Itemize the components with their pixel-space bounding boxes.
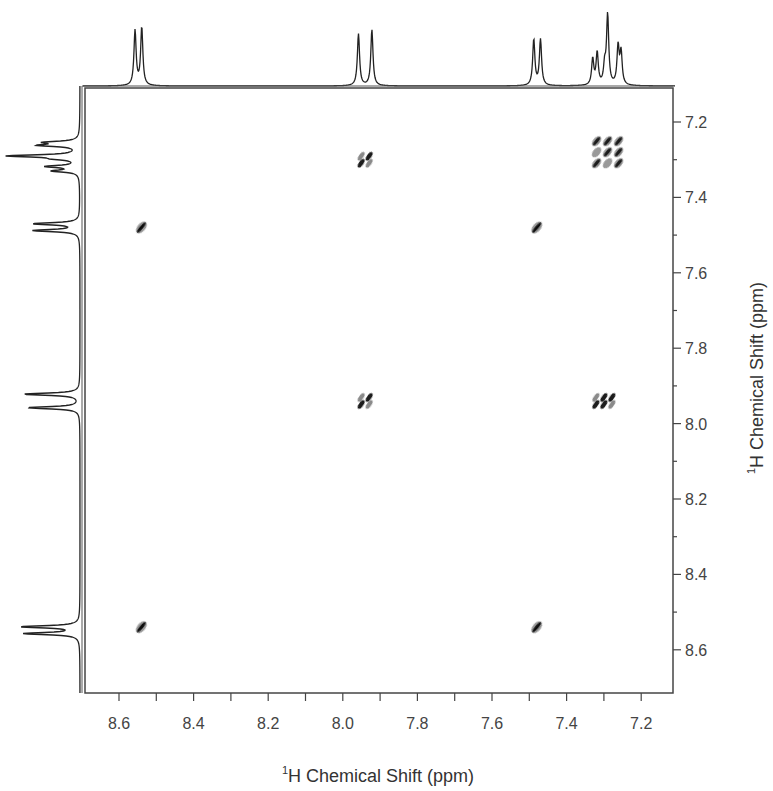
x-tick-label: 8.4	[182, 715, 204, 732]
x-axis: 8.68.48.28.07.87.67.47.2	[108, 693, 653, 732]
cross-peak	[134, 220, 149, 236]
y-axis-title: 1H Chemical Shift (ppm)	[745, 282, 767, 474]
diagonal-peak	[529, 220, 544, 236]
left-1d-projection-spectrum	[6, 86, 80, 693]
diagonal-peak	[134, 619, 149, 635]
diagonal-peak	[590, 134, 625, 170]
y-tick-label: 7.8	[685, 340, 707, 357]
x-tick-label: 7.8	[406, 715, 428, 732]
y-tick-label: 8.0	[685, 416, 707, 433]
x-axis-title: 1H Chemical Shift (ppm)	[282, 764, 474, 786]
y-tick-label: 8.2	[685, 491, 707, 508]
x-tick-label: 7.2	[630, 715, 652, 732]
cross-peak	[529, 619, 544, 635]
top-1d-projection-spectrum	[83, 12, 675, 86]
y-axis: 7.27.47.67.88.08.28.48.6	[673, 114, 707, 659]
y-tick-label: 7.4	[685, 189, 707, 206]
plot-frame	[82, 86, 673, 693]
x-tick-label: 8.6	[108, 715, 130, 732]
cosy-nmr-chart: 8.68.48.28.07.87.67.47.2 7.27.47.67.88.0…	[0, 0, 773, 791]
y-tick-label: 7.2	[685, 114, 707, 131]
diagonal-peak	[357, 392, 374, 410]
x-tick-label: 8.0	[332, 715, 354, 732]
x-tick-label: 7.6	[481, 715, 503, 732]
x-tick-label: 8.2	[257, 715, 279, 732]
y-axis-title-text: H Chemical Shift (ppm)	[747, 282, 767, 468]
cross-peak	[357, 151, 374, 169]
x-axis-title-text: H Chemical Shift (ppm)	[288, 766, 474, 786]
y-tick-label: 7.6	[685, 265, 707, 282]
cross-peak	[591, 392, 616, 410]
contour-peaks	[134, 134, 625, 635]
y-tick-label: 8.6	[685, 642, 707, 659]
x-tick-label: 7.4	[555, 715, 577, 732]
y-tick-label: 8.4	[685, 566, 707, 583]
